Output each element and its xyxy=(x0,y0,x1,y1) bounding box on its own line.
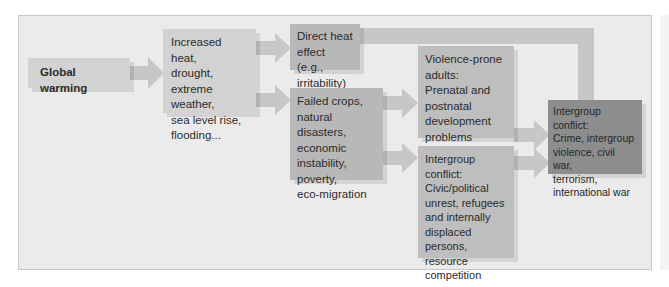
node-line: resource xyxy=(425,254,507,269)
node-line: displaced persons, xyxy=(425,225,507,254)
node-line: effect (e.g., xyxy=(297,45,353,76)
node-line: problems xyxy=(425,130,507,146)
node-line: Prenatal and xyxy=(425,83,507,99)
node-line: terrorism, xyxy=(553,173,637,187)
node-line: international war xyxy=(553,186,637,200)
node-failed-crops: Failed crops, natural disasters, economi… xyxy=(290,88,383,180)
node-line: postnatal xyxy=(425,99,507,115)
node-line: Violence-prone xyxy=(425,52,507,68)
connector-direct-heat-top xyxy=(358,28,594,44)
arrow-right-icon xyxy=(514,148,550,178)
node-line: extreme weather, xyxy=(171,82,248,113)
node-line: and internally xyxy=(425,210,507,225)
node-line: Intergroup conflict: xyxy=(553,105,637,132)
node-direct-heat: Direct heat effect (e.g., irritability) xyxy=(290,24,360,70)
node-line: unrest, refugees xyxy=(425,196,507,211)
node-violence-prone: Violence-prone adults: Prenatal and post… xyxy=(418,46,514,138)
arrow-right-icon xyxy=(255,33,291,63)
node-line: poverty, xyxy=(297,172,376,188)
node-line: Crime, intergroup xyxy=(553,132,637,146)
arrow-right-icon xyxy=(514,120,550,150)
node-global-warming: Global warming xyxy=(28,58,130,88)
page-edge xyxy=(660,15,669,270)
node-line: Direct heat xyxy=(297,29,353,45)
node-line: conflict: xyxy=(425,167,507,182)
node-line: sea level rise, xyxy=(171,113,248,129)
node-line: natural disasters, xyxy=(297,110,376,141)
node-line: Civic/political xyxy=(425,181,507,196)
arrow-right-icon xyxy=(382,143,418,173)
node-line: development xyxy=(425,114,507,130)
node-line: Failed crops, xyxy=(297,94,376,110)
node-line: competition xyxy=(425,268,507,283)
arrow-right-icon xyxy=(128,57,164,89)
node-intergroup-conflict: Intergroup conflict: Crime, intergroup v… xyxy=(548,100,642,174)
node-climate-effects: Increased heat, drought, extreme weather… xyxy=(163,29,256,113)
arrow-right-icon xyxy=(382,88,418,118)
connector-direct-heat-down xyxy=(578,28,594,108)
node-line: violence, civil war, xyxy=(553,146,637,173)
node-line: adults: xyxy=(425,68,507,84)
node-line: Increased heat, xyxy=(171,35,248,66)
node-intergroup-civic: Intergroup conflict: Civic/political unr… xyxy=(418,146,514,258)
node-line: Intergroup xyxy=(425,152,507,167)
node-line: economic xyxy=(297,141,376,157)
node-line: instability, xyxy=(297,156,376,172)
node-line: drought, xyxy=(171,66,248,82)
node-label: Global warming xyxy=(40,65,118,96)
arrow-right-icon xyxy=(255,85,291,115)
node-line: eco-migration xyxy=(297,187,376,203)
node-line: flooding... xyxy=(171,128,248,144)
